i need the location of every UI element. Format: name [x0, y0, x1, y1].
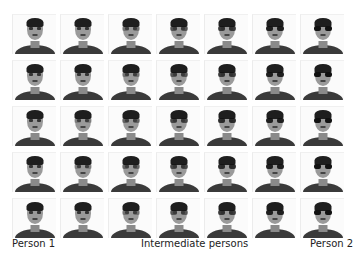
caption-labels: Person 1 Intermediate persons Person 2: [0, 238, 364, 258]
mouth-shape: [80, 80, 85, 82]
neck-shape: [270, 179, 279, 186]
face-image: [60, 14, 104, 54]
sunglasses-shape: [314, 118, 332, 123]
neck-shape: [174, 41, 183, 48]
face-image: [204, 60, 248, 100]
mouth-shape: [320, 218, 325, 220]
mouth-shape: [176, 34, 181, 36]
face-row-5: [12, 198, 352, 238]
sunglasses-shape: [74, 118, 92, 123]
neck-shape: [270, 133, 279, 140]
neck-shape: [30, 133, 39, 140]
neck-shape: [174, 87, 183, 94]
face-image: [12, 198, 56, 238]
face-image: [252, 152, 296, 192]
sunglasses-shape: [170, 118, 188, 123]
sunglasses-shape: [266, 164, 284, 169]
face-image: [300, 152, 344, 192]
mouth-shape: [272, 80, 277, 82]
face-row-1: [12, 14, 352, 54]
neck-shape: [222, 41, 231, 48]
face-image: [204, 14, 248, 54]
mouth-shape: [128, 126, 133, 128]
face-image: [156, 106, 200, 146]
sunglasses-shape: [314, 164, 332, 169]
face-image: [204, 198, 248, 238]
mouth-shape: [176, 80, 181, 82]
face-image: [156, 14, 200, 54]
sunglasses-shape: [266, 26, 284, 31]
mouth-shape: [272, 172, 277, 174]
neck-shape: [30, 179, 39, 186]
face-image: [300, 106, 344, 146]
sunglasses-shape: [218, 72, 236, 77]
mouth-shape: [272, 126, 277, 128]
mouth-shape: [80, 218, 85, 220]
sunglasses-shape: [218, 118, 236, 123]
face-image: [60, 60, 104, 100]
mouth-shape: [176, 172, 181, 174]
neck-shape: [174, 225, 183, 232]
mouth-shape: [224, 218, 229, 220]
sunglasses-shape: [170, 164, 188, 169]
mouth-shape: [224, 126, 229, 128]
mouth-shape: [128, 218, 133, 220]
neck-shape: [270, 87, 279, 94]
neck-shape: [126, 87, 135, 94]
mouth-shape: [176, 218, 181, 220]
neck-shape: [78, 41, 87, 48]
sunglasses-shape: [218, 164, 236, 169]
mouth-shape: [32, 126, 37, 128]
neck-shape: [270, 225, 279, 232]
mouth-shape: [80, 34, 85, 36]
face-row-4: [12, 152, 352, 192]
face-image: [156, 60, 200, 100]
face-image: [60, 198, 104, 238]
face-image: [108, 14, 152, 54]
mouth-shape: [128, 172, 133, 174]
mouth-shape: [32, 80, 37, 82]
face-image: [108, 152, 152, 192]
neck-shape: [78, 225, 87, 232]
neck-shape: [222, 225, 231, 232]
face-image: [156, 198, 200, 238]
sunglasses-shape: [122, 164, 140, 169]
sunglasses-shape: [266, 72, 284, 77]
face-image: [204, 152, 248, 192]
neck-shape: [270, 41, 279, 48]
face-image: [108, 106, 152, 146]
neck-shape: [174, 133, 183, 140]
sunglasses-shape: [122, 72, 140, 77]
mouth-shape: [320, 126, 325, 128]
neck-shape: [318, 179, 327, 186]
neck-shape: [126, 225, 135, 232]
neck-shape: [30, 87, 39, 94]
intermediate-persons-label: Intermediate persons: [141, 238, 248, 249]
sunglasses-shape: [74, 164, 92, 169]
sunglasses-shape: [218, 26, 236, 31]
face-image: [252, 198, 296, 238]
neck-shape: [78, 133, 87, 140]
sunglasses-shape: [122, 26, 140, 31]
neck-shape: [78, 179, 87, 186]
mouth-shape: [272, 34, 277, 36]
face-image: [60, 152, 104, 192]
mouth-shape: [320, 34, 325, 36]
sunglasses-shape: [266, 118, 284, 123]
face-image: [204, 106, 248, 146]
neck-shape: [126, 133, 135, 140]
mouth-shape: [224, 34, 229, 36]
sunglasses-shape: [170, 26, 188, 31]
face-image: [12, 14, 56, 54]
sunglasses-shape: [122, 118, 140, 123]
mouth-shape: [32, 34, 37, 36]
face-image: [60, 106, 104, 146]
face-morph-grid: [12, 14, 352, 244]
face-image: [12, 60, 56, 100]
face-image: [300, 14, 344, 54]
sunglasses-shape: [314, 72, 332, 77]
mouth-shape: [320, 172, 325, 174]
neck-shape: [30, 225, 39, 232]
sunglasses-shape: [314, 210, 332, 215]
face-image: [300, 198, 344, 238]
